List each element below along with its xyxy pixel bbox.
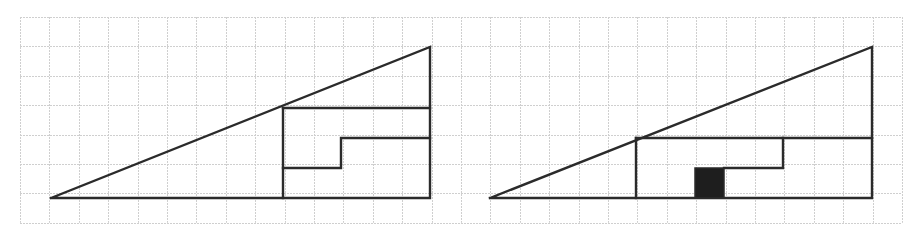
missing-square-hole	[695, 168, 724, 198]
graph-paper-grid	[20, 17, 903, 224]
left-step-line	[283, 138, 430, 168]
missing-square-puzzle-diagram	[0, 0, 921, 234]
right-step-line	[724, 138, 783, 168]
